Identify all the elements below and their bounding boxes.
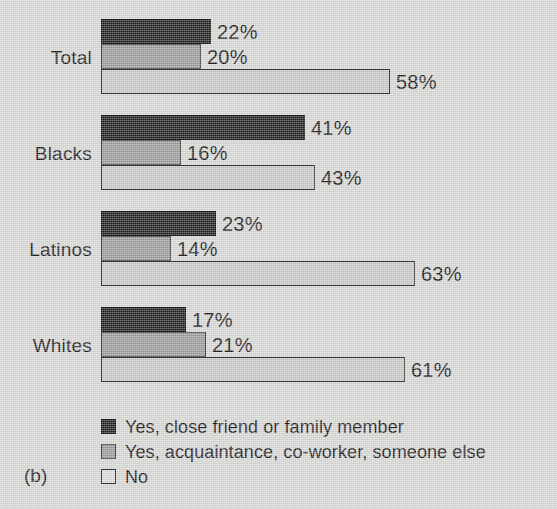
legend-item-label: Yes, close friend or family member (125, 418, 404, 436)
bar-segment[interactable] (101, 44, 201, 69)
bar-row: 41% (101, 115, 305, 140)
category-label: Latinos (0, 240, 92, 259)
bar-value-label: 63% (421, 264, 462, 284)
legend-swatch-black-icon (101, 419, 116, 434)
bar-row: 63% (101, 261, 415, 286)
bar-segment[interactable] (101, 69, 390, 94)
bar-row: 61% (101, 357, 405, 382)
bar-value-label: 43% (321, 168, 362, 188)
bar-segment[interactable] (101, 115, 305, 140)
legend-item-label: No (125, 468, 148, 486)
legend-item: No (101, 464, 551, 489)
bar-segment[interactable] (101, 165, 315, 190)
legend-item: Yes, close friend or family member (101, 414, 551, 439)
bar-value-label: 14% (177, 239, 218, 259)
bar-segment[interactable] (101, 19, 211, 44)
bar-segment[interactable] (101, 307, 186, 332)
bar-value-label: 17% (192, 310, 233, 330)
bar-value-label: 58% (396, 72, 437, 92)
bar-value-label: 23% (222, 214, 263, 234)
bar-row: 14% (101, 236, 171, 261)
bar-segment[interactable] (101, 332, 206, 357)
bar-value-label: 21% (212, 335, 253, 355)
bar-row: 58% (101, 69, 390, 94)
bar-segment[interactable] (101, 140, 181, 165)
bar-value-label: 20% (207, 47, 248, 67)
bar-row: 20% (101, 44, 201, 69)
chart-figure: Total22%20%58%Blacks41%16%43%Latinos23%1… (0, 0, 557, 509)
bar-segment[interactable] (101, 261, 415, 286)
bar-segment[interactable] (101, 211, 216, 236)
bar-value-label: 22% (217, 22, 258, 42)
bar-group: Latinos23%14%63% (0, 211, 557, 286)
bar-segment[interactable] (101, 236, 171, 261)
bar-segment[interactable] (101, 357, 405, 382)
chart-legend: Yes, close friend or family member Yes, … (101, 414, 551, 489)
bar-row: 22% (101, 19, 211, 44)
bar-group: Total22%20%58% (0, 19, 557, 94)
bar-group: Whites17%21%61% (0, 307, 557, 382)
category-label: Whites (0, 336, 92, 355)
legend-swatch-gray-icon (101, 444, 116, 459)
bar-row: 16% (101, 140, 181, 165)
bar-row: 23% (101, 211, 216, 236)
bar-value-label: 16% (187, 143, 228, 163)
panel-label: (b) (24, 466, 47, 485)
bar-row: 43% (101, 165, 315, 190)
bar-row: 17% (101, 307, 186, 332)
legend-item-label: Yes, acquaintance, co-worker, someone el… (125, 443, 486, 461)
bar-value-label: 61% (411, 360, 452, 380)
legend-item: Yes, acquaintance, co-worker, someone el… (101, 439, 551, 464)
bar-group: Blacks41%16%43% (0, 115, 557, 190)
category-label: Blacks (0, 144, 92, 163)
bar-value-label: 41% (311, 118, 352, 138)
legend-swatch-white-icon (101, 469, 116, 484)
bar-row: 21% (101, 332, 206, 357)
plot-area: Total22%20%58%Blacks41%16%43%Latinos23%1… (0, 0, 557, 410)
category-label: Total (0, 48, 92, 67)
